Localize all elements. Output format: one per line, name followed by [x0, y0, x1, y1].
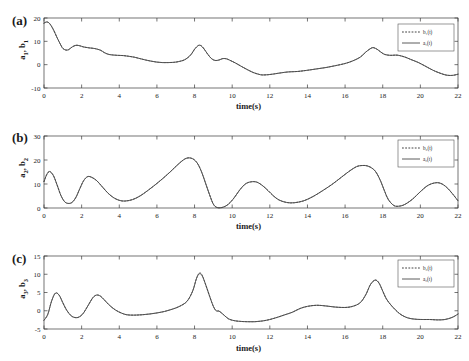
panel-a: (a) a1, b1 a1, b1 0246810121416182022-10…: [0, 0, 469, 118]
svg-text:20: 20: [34, 157, 42, 165]
svg-text:b₃(t): b₃(t): [423, 265, 433, 272]
svg-text:14: 14: [304, 92, 312, 100]
svg-text:0: 0: [37, 205, 41, 213]
svg-text:0: 0: [42, 212, 46, 220]
svg-text:0: 0: [42, 333, 46, 341]
svg-text:14: 14: [304, 333, 312, 341]
svg-text:30: 30: [34, 133, 42, 141]
svg-text:8: 8: [193, 212, 197, 220]
svg-text:18: 18: [379, 212, 387, 220]
svg-text:4: 4: [118, 212, 122, 220]
svg-text:b₁(t): b₁(t): [423, 29, 433, 36]
svg-text:6: 6: [155, 333, 159, 341]
svg-text:6: 6: [155, 92, 159, 100]
svg-text:15: 15: [34, 253, 42, 261]
svg-text:12: 12: [266, 92, 274, 100]
svg-text:a₂(t): a₂(t): [423, 156, 432, 163]
svg-text:6: 6: [155, 212, 159, 220]
svg-text:4: 4: [118, 333, 122, 341]
panel-a-xlabel: time(s): [14, 101, 469, 111]
svg-text:a₃(t): a₃(t): [423, 276, 432, 283]
svg-text:2: 2: [80, 212, 84, 220]
svg-text:16: 16: [342, 92, 350, 100]
svg-text:5: 5: [37, 289, 41, 297]
svg-text:12: 12: [266, 333, 274, 341]
svg-text:10: 10: [34, 271, 42, 279]
svg-text:14: 14: [304, 212, 312, 220]
panel-b-xlabel: time(s): [14, 221, 469, 231]
svg-text:2: 2: [80, 92, 84, 100]
svg-text:0: 0: [37, 61, 41, 69]
svg-text:8: 8: [193, 92, 197, 100]
svg-text:18: 18: [379, 92, 387, 100]
svg-text:20: 20: [417, 333, 425, 341]
svg-text:b₂(t): b₂(t): [423, 145, 433, 152]
svg-text:20: 20: [417, 212, 425, 220]
svg-text:22: 22: [455, 333, 463, 341]
svg-text:10: 10: [34, 38, 42, 46]
panel-b: (b) a2, b2 a2, b2 0246810121416182022010…: [0, 118, 469, 239]
svg-text:4: 4: [118, 92, 122, 100]
svg-text:10: 10: [229, 212, 237, 220]
svg-text:0: 0: [37, 307, 41, 315]
svg-text:20: 20: [34, 15, 42, 23]
svg-text:12: 12: [266, 212, 274, 220]
svg-text:0: 0: [42, 92, 46, 100]
figure-container: (a) a1, b1 a1, b1 0246810121416182022-10…: [0, 0, 469, 361]
svg-text:10: 10: [229, 333, 237, 341]
svg-text:10: 10: [229, 92, 237, 100]
svg-text:-10: -10: [31, 85, 41, 93]
svg-text:10: 10: [34, 181, 42, 189]
svg-text:8: 8: [193, 333, 197, 341]
svg-text:20: 20: [417, 92, 425, 100]
svg-text:18: 18: [379, 333, 387, 341]
svg-text:16: 16: [342, 333, 350, 341]
panel-c-xlabel: time(s): [14, 343, 469, 353]
svg-text:a₁(t): a₁(t): [423, 40, 432, 47]
svg-text:22: 22: [455, 212, 463, 220]
svg-text:22: 22: [455, 92, 463, 100]
svg-text:-5: -5: [35, 326, 41, 334]
panel-c: (c) a3, b3 a3, b3 0246810121416182022-50…: [0, 239, 469, 361]
svg-text:2: 2: [80, 333, 84, 341]
svg-text:16: 16: [342, 212, 350, 220]
